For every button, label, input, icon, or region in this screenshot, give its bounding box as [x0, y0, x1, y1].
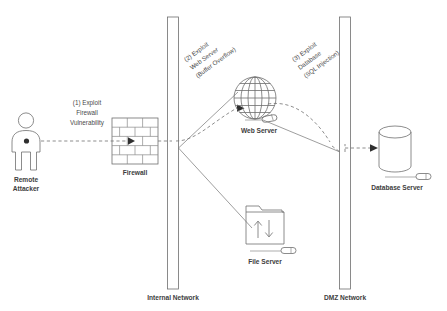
zone-bar-internal-network	[168, 17, 179, 289]
zone-label-internal-network: Internal Network	[147, 294, 199, 301]
attack-path-step-1	[41, 137, 135, 145]
node-attacker: Remote Attacker	[12, 113, 40, 192]
step-1-label-line1: (1) Exploit	[73, 99, 102, 107]
node-label-file-server: File Server	[248, 258, 282, 265]
node-label-database-server: Database Server	[371, 184, 423, 191]
step-1-label-line3: Vulnerability	[70, 119, 105, 127]
person-icon	[12, 113, 40, 170]
node-label-attacker-line2: Attacker	[13, 185, 40, 192]
web-server-to-dmz-line	[263, 120, 340, 152]
database-server-device-icon	[385, 174, 431, 180]
step-3-label: (3) Exploit Database (SQL Injection)	[290, 33, 340, 80]
database-cylinder-icon	[379, 126, 411, 172]
node-firewall: Firewall	[112, 118, 158, 176]
node-label-attacker-line1: Remote	[14, 176, 39, 183]
node-web-server: Web Server	[234, 77, 278, 134]
step-1-label-line2: Firewall	[76, 109, 98, 116]
step-1-label: (1) Exploit Firewall Vulnerability	[70, 99, 105, 127]
attack-path-step-2	[158, 104, 245, 141]
globe-icon	[234, 77, 276, 119]
network-attack-diagram: Internal Network DMZ Network Remote At	[0, 0, 447, 311]
node-database-server: Database Server	[371, 126, 431, 191]
node-file-server: File Server	[246, 206, 296, 265]
folder-transfer-icon	[246, 206, 284, 244]
zone-label-dmz-network: DMZ Network	[324, 294, 366, 301]
step-2-label: (2) Exploit Web Server (Buffer Overflow)	[182, 29, 237, 80]
node-label-firewall: Firewall	[123, 169, 148, 176]
zone-bar-dmz-network	[340, 17, 351, 289]
file-server-device-icon	[250, 248, 296, 254]
node-label-web-server: Web Server	[241, 127, 278, 134]
